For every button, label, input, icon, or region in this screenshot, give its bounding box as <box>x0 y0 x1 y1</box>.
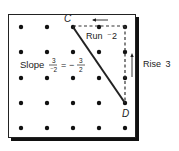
fraction2-denominator: 2 <box>79 66 83 73</box>
run-label: Run ⁻2 <box>86 31 117 41</box>
fraction1-numerator: 3 <box>52 57 56 64</box>
geoboard-diagram: C D Run ⁻2 Rise 3 Slope 3 ⁻2 = − 3 2 <box>0 0 179 151</box>
point-c-label: C <box>64 13 72 24</box>
equals-sign: = <box>61 60 66 70</box>
fraction1-denominator: ⁻2 <box>50 66 58 73</box>
negative-sign: − <box>69 60 74 70</box>
rise-label: Rise 3 <box>143 59 171 69</box>
slope-label: Slope <box>20 59 44 70</box>
point-d-label: D <box>122 108 129 119</box>
fraction2-numerator: 3 <box>79 57 83 64</box>
